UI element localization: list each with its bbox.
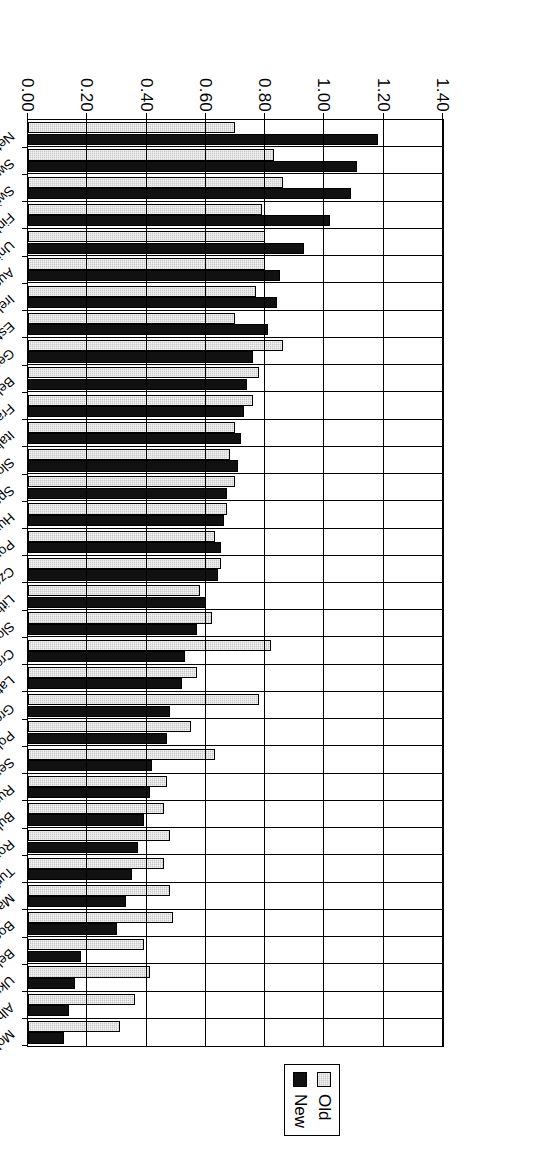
bar-old	[28, 531, 215, 542]
legend-entry-old: Old	[316, 1072, 333, 1128]
category-group: Germany	[28, 338, 443, 365]
category-group: Spain	[28, 474, 443, 501]
bar-new	[28, 706, 170, 717]
category-group: Macedonia, FYR	[28, 883, 443, 910]
bar-new	[28, 515, 224, 526]
bar-new	[28, 542, 221, 553]
bar-new	[28, 161, 357, 172]
category-track: NetherlandsSwedenSwitzerlandFinlandUnite…	[28, 120, 443, 1046]
bar-new	[28, 651, 185, 662]
axis-tick	[27, 113, 28, 120]
bar-new	[28, 978, 75, 989]
category-group: Serbia	[28, 746, 443, 773]
category-group: Hungary	[28, 501, 443, 528]
axis-tick-label: 1.20	[375, 58, 392, 112]
bar-new	[28, 787, 150, 798]
bar-old	[28, 558, 221, 569]
bar-new	[28, 134, 378, 145]
bar-new	[28, 624, 197, 635]
axis-tick	[86, 113, 87, 120]
bar-old	[28, 966, 150, 977]
gridline	[86, 120, 87, 1046]
category-group: United Kingdom	[28, 229, 443, 256]
axis-tick	[323, 113, 324, 120]
legend-label-old: Old	[316, 1094, 333, 1120]
chart-legend: Old New	[284, 1064, 340, 1136]
bar-new	[28, 1005, 70, 1016]
bar-new	[28, 923, 117, 934]
axis-tick	[383, 113, 384, 120]
bar-new	[28, 351, 253, 362]
bar-old	[28, 694, 259, 705]
category-group: Poland	[28, 719, 443, 746]
bar-old	[28, 994, 135, 1005]
category-group: Netherlands	[28, 120, 443, 147]
bar-old	[28, 149, 274, 160]
bar-new	[28, 869, 132, 880]
bar-new	[28, 379, 247, 390]
legend-swatch-old-icon	[318, 1072, 332, 1087]
category-group: Russian Federation	[28, 774, 443, 801]
axis-tick	[264, 113, 265, 120]
chart-figure: NetherlandsSwedenSwitzerlandFinlandUnite…	[0, 0, 558, 1152]
bar-old	[28, 503, 227, 514]
bar-new	[28, 324, 268, 335]
axis-tick-label: 0.80	[256, 58, 273, 112]
bar-old	[28, 830, 170, 841]
category-group: Belgium	[28, 365, 443, 392]
legend-entry-new: New	[292, 1072, 309, 1128]
category-group: Moldova	[28, 1019, 443, 1046]
axis-tick-label: 0.40	[138, 58, 155, 112]
bar-old	[28, 912, 173, 923]
bar-new	[28, 488, 227, 499]
category-group: Austria	[28, 256, 443, 283]
category-group: Sweden	[28, 147, 443, 174]
bar-old	[28, 858, 164, 869]
bar-old	[28, 667, 197, 678]
axis-tick	[442, 113, 443, 120]
axis-tick-label: 0.20	[78, 58, 95, 112]
bar-old	[28, 640, 271, 651]
category-group: Switzerland	[28, 174, 443, 201]
bar-old	[28, 612, 212, 623]
axis-tick-label: 1.00	[315, 58, 332, 112]
category-group: Romania	[28, 828, 443, 855]
bar-new	[28, 270, 280, 281]
category-label: Italy	[0, 428, 17, 455]
category-group: France	[28, 392, 443, 419]
bar-new	[28, 297, 277, 308]
bar-new	[28, 215, 330, 226]
bar-old	[28, 721, 191, 732]
bar-old	[28, 449, 230, 460]
category-group: Italy	[28, 420, 443, 447]
category-group: Latvia	[28, 665, 443, 692]
gridline	[205, 120, 206, 1046]
category-group: Greece	[28, 692, 443, 719]
axis-tick	[205, 113, 206, 120]
axis-tick-label: 0.60	[197, 58, 214, 112]
category-group: Belarus	[28, 937, 443, 964]
bar-old	[28, 395, 253, 406]
category-group: Slovenia	[28, 447, 443, 474]
bar-old	[28, 885, 170, 896]
bar-new	[28, 896, 126, 907]
category-group: Portugal	[28, 529, 443, 556]
gridline	[146, 120, 147, 1046]
axis-tick-label: 0.00	[19, 58, 36, 112]
bar-new	[28, 460, 238, 471]
category-group: Estonia	[28, 311, 443, 338]
category-group: Albania	[28, 992, 443, 1019]
bar-new	[28, 188, 351, 199]
category-tick	[22, 1045, 28, 1046]
gridline	[442, 120, 443, 1046]
bar-new	[28, 433, 241, 444]
bar-new	[28, 406, 244, 417]
bar-old	[28, 367, 259, 378]
gridline	[264, 120, 265, 1046]
category-group: Lithuania	[28, 583, 443, 610]
legend-label-new: New	[292, 1094, 309, 1128]
legend-swatch-new-icon	[294, 1072, 308, 1087]
category-group: Bulgaria	[28, 801, 443, 828]
gridline	[383, 120, 384, 1046]
bar-old	[28, 340, 283, 351]
